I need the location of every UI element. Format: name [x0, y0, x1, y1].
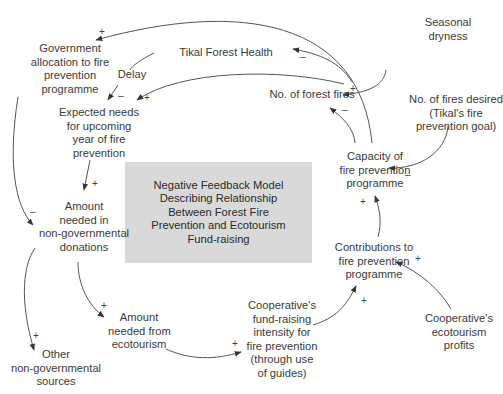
node-cooperative-fundraising: Cooperative's fund-raising intensity for…: [240, 299, 324, 380]
node-seasonal-dryness: Seasonal dryness: [408, 16, 488, 43]
title-line: Fund-raising: [151, 233, 285, 247]
node-contributions: Contributions to fire prevention program…: [324, 241, 424, 282]
node-amount-ecotourism: Amount needed from ecotourism: [108, 311, 170, 352]
polarity-expected-to-amount: +: [92, 179, 98, 189]
title-line: Prevention and Ecotourism: [151, 219, 285, 233]
node-government-allocation: Government allocation to fire prevention…: [16, 42, 124, 96]
node-expected-needs: Expected needs for upcoming year of fire…: [54, 106, 144, 160]
polarity-fires-to-health: –: [300, 52, 306, 62]
polarity-amount-to-ecotourism: +: [101, 301, 107, 311]
arrow-contributions-to-capacity: [375, 196, 380, 237]
node-delay: Delay: [110, 68, 154, 82]
arrow-expected-to-amount: [84, 160, 90, 190]
polarity-amount-to-other: +: [33, 331, 39, 341]
title-line: Describing Relationship: [151, 192, 285, 206]
node-capacity: Capacity of fire prevention programme: [325, 150, 425, 191]
polarity-coop-to-contributions: +: [361, 296, 367, 306]
causal-loop-diagram: + – – + + – – + – + + + + + + Negative F…: [0, 0, 503, 394]
node-fires-desired: No. of fires desired (Tikal's fire preve…: [400, 93, 503, 134]
polarity-capacity-to-fires: –: [342, 105, 348, 115]
title-line: Between Forest Fire: [151, 206, 285, 220]
diagram-title-box: Negative Feedback Model Describing Relat…: [125, 162, 312, 263]
diagram-title: Negative Feedback Model Describing Relat…: [151, 179, 285, 247]
node-other-sources: Other non-governmental sources: [8, 348, 104, 389]
polarity-fires-to-expected: +: [144, 93, 150, 103]
polarity-fires-to-government: +: [99, 27, 105, 37]
node-amount-non-governmental: Amount needed in non-governmental donati…: [34, 200, 134, 254]
node-no-forest-fires: No. of forest fires: [252, 88, 372, 102]
node-tikal-forest-health: Tikal Forest Health: [162, 46, 290, 60]
polarity-ecotourism-to-coop: +: [232, 339, 238, 349]
arrow-ecotourism-to-coop: [166, 349, 241, 358]
title-line: Negative Feedback Model: [151, 179, 285, 193]
node-cooperative-profits: Cooperative's ecotourism profits: [414, 312, 503, 353]
polarity-contributions-to-capacity: +: [360, 197, 366, 207]
